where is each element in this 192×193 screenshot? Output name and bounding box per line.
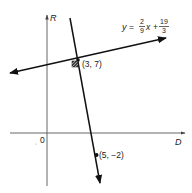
svg-text:3: 3 (162, 27, 166, 34)
svg-text:2: 2 (140, 18, 144, 25)
svg-text:19: 19 (160, 18, 168, 25)
svg-text:=: = (129, 22, 134, 32)
svg-text:9: 9 (140, 27, 144, 34)
origin-dot (35, 143, 36, 144)
label-point-3-7: (3, 7) (82, 59, 102, 69)
equation-label: y = 2 9 x + 19 3 (121, 18, 169, 34)
label-origin: 0 (40, 135, 45, 145)
svg-text:x: x (145, 22, 151, 32)
label-axis-r: R (50, 13, 57, 23)
label-point-5-neg2: (5, −2) (99, 150, 124, 160)
svg-text:+: + (153, 22, 158, 32)
label-axis-d: D (175, 137, 182, 147)
svg-text:y: y (121, 22, 127, 32)
point-intersection (76, 58, 80, 62)
line-steep (70, 18, 100, 183)
point-5-neg2 (95, 153, 99, 157)
coordinate-diagram: (3, 7) (5, −2) R D 0 y = 2 9 x + 19 3 (0, 0, 192, 193)
